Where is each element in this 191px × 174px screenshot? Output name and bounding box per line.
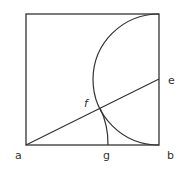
- geometry-diagram: a g b e f: [0, 0, 191, 174]
- label-g: g: [103, 149, 110, 162]
- label-f: f: [84, 97, 90, 110]
- line-a-e: [26, 79, 159, 145]
- semicircle-arc: [93, 14, 159, 145]
- label-e: e: [168, 74, 175, 87]
- arc-f-g: [100, 108, 108, 145]
- label-a: a: [15, 149, 22, 162]
- label-b: b: [167, 149, 174, 162]
